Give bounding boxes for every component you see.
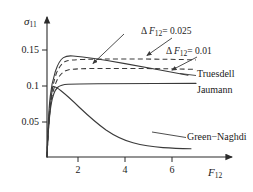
annotation-value-001: = 0.01 [187, 46, 211, 56]
curve-label-truesdell: Truesdell [197, 69, 234, 79]
curve-label-jaumann: Jaumann [197, 85, 233, 95]
y-axis-subscript: 11 [29, 20, 36, 29]
y-tick-label-005: 0.05 [3, 117, 39, 127]
annotation-delta-f12-0025: Δ F12= 0.025 [141, 27, 191, 38]
x-axis-symbol: F [208, 166, 215, 178]
leader-line-delta-001 [172, 57, 197, 70]
series-truesdell [47, 56, 188, 157]
series-jaumann [47, 83, 196, 157]
series-green-naghdi [47, 86, 191, 157]
y-axis-title: σ11 [24, 16, 37, 29]
annotation-delta-f12-001: Δ F12= 0.01 [166, 47, 212, 58]
x-tick-label-2: 2 [71, 165, 85, 175]
x-axis-subscript: 12 [215, 171, 223, 180]
x-axis-title: F12 [208, 167, 222, 180]
curve-label-green-naghdi: Green−Naghdi [187, 132, 247, 142]
annotation-delta-prefix-0025: Δ [141, 26, 149, 36]
series-dF12-0025 [47, 59, 196, 157]
annotation-value-0025: = 0.025 [162, 26, 191, 36]
x-tick-label-4: 4 [118, 165, 132, 175]
y-tick-label-015: 0.15 [3, 45, 39, 55]
annotation-delta-prefix-001: Δ [166, 46, 174, 56]
y-tick-label-010: 0.1 [3, 81, 39, 91]
chart-figure: σ11 0.15 0.1 0.05 2 4 6 F12 Δ F12= 0.025… [0, 0, 253, 192]
series-dF12-001 [47, 69, 196, 158]
x-tick-label-6: 6 [165, 165, 179, 175]
leader-line-green-naghdi [152, 132, 186, 138]
